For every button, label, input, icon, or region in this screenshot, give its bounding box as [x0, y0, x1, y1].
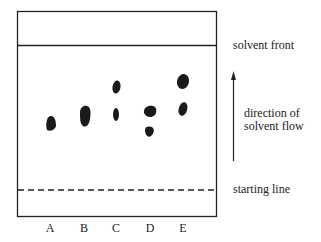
spot-E-2 — [177, 101, 189, 117]
lane-label-E: E — [179, 221, 186, 235]
chromatogram-diagram: A B C D E solvent front direction of sol… — [0, 0, 321, 242]
spot-D-1 — [144, 106, 156, 117]
spot-E-1 — [175, 73, 190, 91]
lane-label-A: A — [46, 221, 55, 235]
spot-C-1 — [111, 80, 121, 94]
starting-line-label: starting line — [233, 182, 290, 196]
arrow-up-icon — [231, 71, 236, 80]
direction-label-line1: direction of — [244, 106, 300, 120]
lane-label-D: D — [146, 221, 155, 235]
spot-A-1 — [46, 116, 56, 131]
lane-label-B: B — [80, 221, 88, 235]
direction-label-line2: solvent flow — [244, 119, 304, 133]
spots — [46, 73, 191, 137]
spot-C-2 — [113, 108, 119, 121]
spot-B-1 — [80, 106, 91, 127]
spot-D-2 — [145, 126, 154, 136]
lane-label-C: C — [112, 221, 120, 235]
solvent-front-label: solvent front — [233, 38, 295, 52]
